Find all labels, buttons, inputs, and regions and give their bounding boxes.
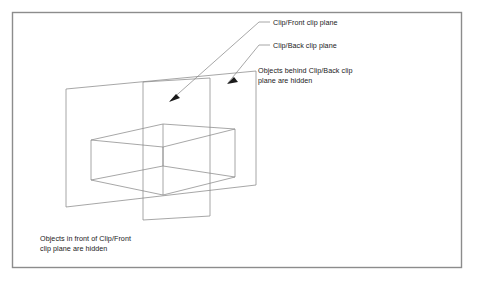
label-clip-front-plane: Clip/Front clip plane — [273, 18, 338, 28]
figure-border — [13, 13, 462, 268]
note-objects-behind-back-plane: Objects behind Clip/Back clip plane are … — [258, 66, 353, 85]
clip-plane-figure: Clip/Front clip plane Clip/Back clip pla… — [0, 0, 477, 282]
note-objects-in-front-of-front-plane: Objects in front of Clip/Front clip plan… — [40, 234, 131, 253]
label-clip-back-plane: Clip/Back clip plane — [273, 41, 337, 51]
